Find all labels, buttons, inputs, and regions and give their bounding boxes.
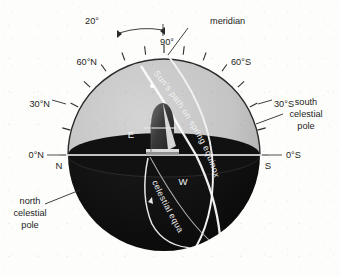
lat-60s-label: 60°S <box>231 57 251 67</box>
lat-30s-leader-line <box>258 100 272 104</box>
north-pole-label-line3: pole <box>21 220 38 230</box>
north-pole-label-line2: celestial <box>13 208 46 218</box>
cardinal-north-label: N <box>56 160 63 171</box>
sun-marker <box>150 84 154 88</box>
lat-60n-label: 60°N <box>76 57 97 67</box>
south-pole-label-line1: south <box>295 97 317 107</box>
meridian-label: meridian <box>210 16 245 26</box>
angle-20-label: 20° <box>85 16 99 26</box>
angle-90-label: 90° <box>160 37 174 47</box>
lat-0s-label: 0°S <box>286 150 301 160</box>
north-pole-label-line1: north <box>20 196 41 206</box>
cardinal-south-label: S <box>265 160 271 171</box>
lat-0n-label: 0°N <box>29 150 44 160</box>
lat-30s-label: 30°S <box>274 99 294 109</box>
south-pole-label-line2: celestial <box>289 109 322 119</box>
celestial-sphere-diagram: 20° 90° meridian 60°N 30°N 0°N 60°S 30°S… <box>0 0 340 277</box>
south-pole-label-line3: pole <box>297 121 314 131</box>
south-pole-leader-line <box>256 114 283 124</box>
angle-20-annotation <box>117 24 165 38</box>
cardinal-west-label: W <box>178 176 188 187</box>
cardinal-east-label: E <box>128 129 134 140</box>
north-pole-leader-line <box>45 190 80 204</box>
lat-30n-label: 30°N <box>29 99 50 109</box>
lat-30n-leader-line <box>52 100 66 104</box>
